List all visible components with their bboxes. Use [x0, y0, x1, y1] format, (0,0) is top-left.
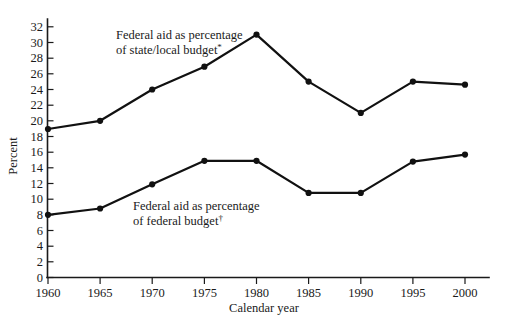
- y-axis-ticks: 0 2 4 6 8 10 12 14 16 18 20 22 2: [31, 20, 54, 285]
- x-tick-label: 1970: [140, 286, 165, 300]
- x-tick-label: 1995: [400, 286, 425, 300]
- y-tick-label: 8: [37, 208, 43, 222]
- data-point: [253, 31, 259, 37]
- x-tick-label: 1960: [36, 286, 61, 300]
- y-tick-label: 24: [31, 83, 44, 97]
- y-tick-label: 2: [37, 255, 43, 269]
- y-tick-label: 20: [31, 114, 44, 128]
- x-axis-ticks: 1960 1965 1970 1975 1980 1985 1990 1995 …: [36, 278, 478, 301]
- data-point: [201, 158, 207, 164]
- data-point: [410, 79, 416, 85]
- annotation-text: of federal budget: [133, 214, 219, 228]
- x-tick-label: 2000: [453, 286, 478, 300]
- data-point: [462, 152, 468, 158]
- data-point: [149, 181, 155, 187]
- series-line-state-local: [48, 35, 465, 129]
- data-point: [410, 159, 416, 165]
- y-tick-label: 0: [37, 271, 43, 285]
- data-point: [97, 205, 103, 211]
- y-tick-label: 14: [31, 161, 44, 175]
- x-tick-label: 1965: [88, 286, 113, 300]
- data-point: [45, 126, 51, 132]
- data-point: [306, 79, 312, 85]
- series-state-local-budget: [45, 31, 468, 132]
- y-axis-title: Percent: [6, 137, 20, 175]
- y-tick-label: 10: [31, 192, 44, 206]
- y-tick-label: 18: [31, 130, 44, 144]
- x-tick-label: 1990: [348, 286, 373, 300]
- lower-series-annotation: Federal aid as percentage of federal bud…: [133, 199, 260, 228]
- data-point: [306, 190, 312, 196]
- annotation-line-1: Federal aid as percentage: [116, 28, 243, 42]
- data-point: [462, 82, 468, 88]
- x-tick-label: 1985: [296, 286, 321, 300]
- y-tick-label: 32: [31, 20, 44, 34]
- y-tick-label: 22: [31, 98, 44, 112]
- upper-series-annotation: Federal aid as percentage of state/local…: [116, 28, 243, 57]
- chart-canvas: 0 2 4 6 8 10 12 14 16 18 20 22 2: [0, 0, 511, 324]
- annotation-line-2: of federal budget†: [133, 213, 223, 228]
- data-point: [358, 190, 364, 196]
- chart-figure: 0 2 4 6 8 10 12 14 16 18 20 22 2: [0, 0, 511, 324]
- x-tick-label: 1975: [192, 286, 217, 300]
- y-tick-label: 26: [31, 67, 44, 81]
- data-point: [358, 110, 364, 116]
- y-tick-label: 30: [31, 36, 44, 50]
- x-axis-title: Calendar year: [229, 301, 300, 315]
- y-tick-label: 28: [31, 51, 44, 65]
- y-tick-label: 6: [37, 224, 43, 238]
- data-point: [201, 64, 207, 70]
- annotation-footnote-mark: †: [218, 213, 223, 223]
- annotation-line-2: of state/local budget*: [116, 42, 222, 57]
- y-tick-label: 4: [37, 239, 44, 253]
- data-point: [149, 86, 155, 92]
- data-point: [253, 158, 259, 164]
- data-point: [97, 118, 103, 124]
- annotation-footnote-mark: *: [217, 42, 222, 52]
- y-tick-label: 16: [31, 145, 44, 159]
- y-tick-label: 12: [31, 177, 44, 191]
- annotation-line-1: Federal aid as percentage: [133, 199, 260, 213]
- data-point: [45, 212, 51, 218]
- annotation-text: of state/local budget: [116, 43, 218, 57]
- x-tick-label: 1980: [244, 286, 269, 300]
